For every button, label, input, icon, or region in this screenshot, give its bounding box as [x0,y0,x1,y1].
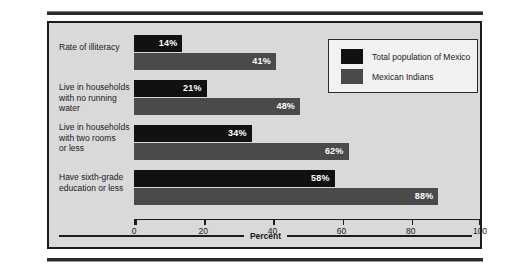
bar-value-label: 14% [159,39,183,48]
x-axis-tick [343,220,345,225]
legend-item: Mexican Indians [341,69,433,84]
category-label: Live in householdswith two roomsor less [59,122,131,154]
chart-panel: Rate of illiteracyLive in householdswith… [47,21,482,249]
bar-value-label: 34% [228,129,252,138]
legend-item: Total population of Mexico [341,49,470,64]
bar: 41% [134,53,276,70]
category-label: Rate of illiteracy [59,42,131,53]
legend-swatch [341,69,363,84]
legend-label: Mexican Indians [372,72,433,82]
x-axis-title-row: Percent [59,230,472,242]
bar-value-label: 48% [276,102,300,111]
bar-value-label: 88% [415,192,439,201]
x-axis-title: Percent [244,231,287,241]
bar: 62% [134,143,349,160]
x-axis-tick [135,220,137,225]
x-axis-tick [204,220,206,225]
bar: 58% [134,170,335,187]
bar-value-label: 41% [252,57,276,66]
top-rule [47,11,483,15]
bar: 21% [134,80,207,97]
chart-legend: Total population of MexicoMexican Indian… [328,39,478,93]
chart-figure: Rate of illiteracyLive in householdswith… [0,0,507,270]
bar-value-label: 21% [183,84,207,93]
bar: 88% [134,188,438,205]
legend-swatch [341,49,363,64]
bar-value-label: 62% [325,147,349,156]
axis-title-lead-rule [59,235,244,237]
category-label: Live in householdswith no running water [59,82,131,114]
bar-group: 58%88% [134,170,480,206]
category-label-column: Rate of illiteracyLive in householdswith… [59,33,131,219]
bar: 48% [134,98,300,115]
bar: 34% [134,125,252,142]
bar: 14% [134,35,182,52]
bar-group: 34%62% [134,125,480,161]
axis-title-trail-rule [287,235,472,237]
x-axis-tick [412,220,414,225]
x-axis [134,219,480,225]
x-axis-tick [273,220,275,225]
x-axis-tick [480,220,482,225]
bottom-rule [47,258,483,262]
legend-label: Total population of Mexico [372,52,470,62]
bar-value-label: 58% [311,174,335,183]
x-axis-tick-label: 100 [473,226,487,236]
category-label: Have sixth-gradeeducation or less [59,172,131,193]
